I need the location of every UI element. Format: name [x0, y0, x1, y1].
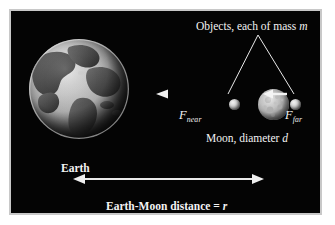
figure-panel: Objects, each of mass m Fnear Ffar Moon,…	[11, 11, 320, 213]
mass-object-near	[229, 99, 240, 110]
label-force-near-subscript: near	[187, 115, 202, 124]
earth-continents-icon	[29, 39, 129, 139]
label-objects-mass: Objects, each of mass m	[196, 21, 307, 33]
label-moon-text: Moon, diameter	[206, 132, 282, 144]
label-moon-symbol: d	[282, 132, 288, 144]
label-moon-diameter: Moon, diameter d	[206, 133, 288, 145]
label-force-far-subscript: far	[293, 115, 303, 124]
label-objects-text: Objects, each of mass	[196, 20, 299, 32]
label-force-near: Fnear	[179, 109, 202, 122]
label-objects-symbol: m	[299, 20, 307, 32]
label-distance-symbol: r	[223, 200, 227, 212]
label-force-far: Ffar	[285, 109, 302, 122]
label-earth-moon-distance: Earth-Moon distance = r	[106, 201, 227, 213]
figure-root: Objects, each of mass m Fnear Ffar Moon,…	[0, 0, 335, 225]
earth-globe	[29, 39, 129, 139]
label-earth: Earth	[61, 163, 90, 175]
force-near-arrow	[156, 90, 226, 99]
label-distance-text: Earth-Moon distance =	[106, 200, 223, 212]
figure-frame: Objects, each of mass m Fnear Ffar Moon,…	[9, 9, 322, 215]
distance-arrow	[73, 174, 264, 184]
earth-body	[29, 39, 129, 139]
label-force-far-symbol: F	[285, 108, 293, 122]
label-force-near-symbol: F	[179, 108, 187, 122]
leader-lines	[228, 35, 294, 94]
